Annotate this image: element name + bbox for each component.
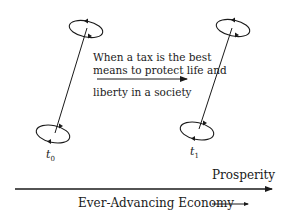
caption-line-3: liberty in a society: [93, 86, 227, 99]
caption: When a tax is the best means to protect …: [93, 51, 227, 99]
time-label-t1: t1: [190, 145, 199, 160]
caption-line-1: When a tax is the best: [93, 51, 227, 64]
time-label-t0: t0: [46, 148, 55, 163]
axis-line: [55, 28, 87, 133]
diagram: When a tax is the best means to protect …: [0, 0, 283, 218]
economy-label: Ever-Advancing Economy: [78, 196, 234, 210]
caption-line-2: means to protect life and: [93, 64, 227, 77]
bottom-rotation-ellipse-icon: [179, 119, 216, 143]
prosperity-label: Prosperity: [212, 168, 275, 182]
diagram-graphics: [0, 0, 283, 218]
bottom-rotation-ellipse-icon: [35, 122, 72, 146]
